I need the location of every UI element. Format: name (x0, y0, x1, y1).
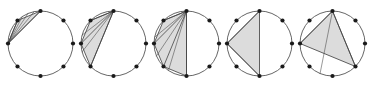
inscribed-polygon-diagram (0, 0, 386, 87)
vertex-dot-1-upper-left (15, 18, 19, 22)
shaded-region-3 (154, 11, 187, 76)
vertex-dot-3-upper-right (207, 18, 211, 22)
vertex-dot-2-top (111, 9, 115, 13)
vertex-dot-3-top (184, 9, 188, 13)
vertex-dot-5-bottom (330, 74, 334, 78)
vertex-dot-5-left (298, 41, 302, 45)
vertex-dot-2-upper-left (88, 18, 92, 22)
circle-panel-1 (6, 9, 75, 78)
vertex-dot-2-upper-right (134, 18, 138, 22)
vertex-dot-4-top (257, 9, 261, 13)
vertex-dot-3-left (152, 41, 156, 45)
vertex-dot-3-right (217, 41, 221, 45)
vertex-dot-2-bottom (111, 74, 115, 78)
vertex-dot-4-lower-left (234, 64, 238, 68)
vertex-dot-1-right (71, 41, 75, 45)
vertex-dot-1-lower-right (61, 64, 65, 68)
vertex-dot-2-lower-right (134, 64, 138, 68)
vertex-dot-3-lower-right (207, 64, 211, 68)
circle-panel-3 (152, 9, 221, 78)
figure-container (0, 0, 386, 87)
vertex-dot-5-right (363, 41, 367, 45)
vertex-dot-3-upper-left (161, 18, 165, 22)
vertex-dot-1-top (38, 9, 42, 13)
vertex-dot-5-upper-right (353, 18, 357, 22)
vertex-dot-2-right (144, 41, 148, 45)
fan-line-1-2 (8, 13, 28, 43)
vertex-dot-1-left (6, 41, 10, 45)
vertex-dot-2-lower-left (88, 64, 92, 68)
circle-panel-5 (298, 9, 367, 78)
vertex-dot-2-left (79, 41, 83, 45)
vertex-dot-5-lower-right (353, 64, 357, 68)
vertex-dot-1-upper-right (61, 18, 65, 22)
vertex-dot-1-bottom (38, 74, 42, 78)
vertex-dot-5-upper-left (307, 18, 311, 22)
circle-panel-4 (225, 9, 294, 78)
vertex-dot-1-lower-left (15, 64, 19, 68)
vertex-dot-4-lower-right (280, 64, 284, 68)
circle-panel-2 (79, 9, 148, 78)
vertex-dot-3-bottom (184, 74, 188, 78)
vertex-dot-4-right (290, 41, 294, 45)
vertex-dot-4-left (225, 41, 229, 45)
vertex-dot-4-upper-right (280, 18, 284, 22)
shaded-region-4 (227, 11, 260, 76)
vertex-dot-4-upper-left (234, 18, 238, 22)
vertex-dot-5-lower-left (307, 64, 311, 68)
vertex-dot-3-lower-left (161, 64, 165, 68)
vertex-dot-5-top (330, 9, 334, 13)
vertex-dot-4-bottom (257, 74, 261, 78)
